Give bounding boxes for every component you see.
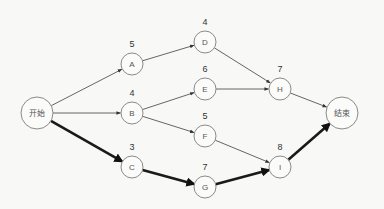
node-A: A5 bbox=[121, 39, 143, 75]
node-end: 结束 bbox=[326, 97, 358, 129]
node-C: C3 bbox=[121, 142, 143, 178]
node-B: B4 bbox=[121, 88, 143, 124]
node-D: D4 bbox=[194, 17, 216, 53]
node-label-E: E bbox=[202, 85, 207, 94]
node-label-I: I bbox=[279, 163, 281, 172]
edge-B-to-F bbox=[143, 116, 195, 132]
node-label-start: 开始 bbox=[29, 108, 45, 118]
node-G: G7 bbox=[194, 162, 216, 198]
edge-F-to-I bbox=[215, 140, 269, 162]
edge-I-to-end-critical bbox=[288, 124, 329, 160]
edge-H-to-end bbox=[290, 93, 326, 107]
duration-label-B: 4 bbox=[129, 88, 134, 98]
node-E: E6 bbox=[194, 64, 216, 100]
duration-label-I: 8 bbox=[277, 142, 282, 152]
duration-label-G: 7 bbox=[202, 162, 207, 172]
edge-B-to-E bbox=[142, 93, 194, 110]
node-label-G: G bbox=[202, 183, 208, 192]
network-diagram-canvas: 开始A5B4C3D4E6F5G7H7I8结束 bbox=[0, 0, 384, 209]
node-label-D: D bbox=[202, 38, 208, 47]
edge-C-to-G-critical bbox=[143, 170, 194, 184]
node-label-B: B bbox=[129, 109, 134, 118]
duration-label-A: 5 bbox=[129, 39, 134, 49]
node-I: I8 bbox=[269, 142, 291, 178]
node-start: 开始 bbox=[21, 97, 53, 129]
node-label-H: H bbox=[277, 85, 283, 94]
node-label-A: A bbox=[129, 60, 135, 69]
node-label-C: C bbox=[129, 163, 135, 172]
duration-label-F: 5 bbox=[202, 111, 207, 121]
node-label-F: F bbox=[203, 132, 208, 141]
edge-start-to-C-critical bbox=[51, 121, 122, 161]
node-H: H7 bbox=[269, 64, 291, 100]
duration-label-E: 6 bbox=[202, 64, 207, 74]
node-F: F5 bbox=[194, 111, 216, 147]
network-diagram: 开始A5B4C3D4E6F5G7H7I8结束 bbox=[0, 0, 384, 209]
edge-start-to-A bbox=[51, 69, 122, 105]
edge-G-to-I-critical bbox=[216, 170, 269, 184]
duration-label-C: 3 bbox=[129, 142, 134, 152]
duration-label-H: 7 bbox=[277, 64, 282, 74]
edge-D-to-H bbox=[214, 48, 270, 83]
nodes-layer: 开始A5B4C3D4E6F5G7H7I8结束 bbox=[21, 17, 358, 198]
duration-label-D: 4 bbox=[202, 17, 207, 27]
node-label-end: 结束 bbox=[334, 108, 350, 118]
edge-A-to-D bbox=[143, 45, 195, 61]
